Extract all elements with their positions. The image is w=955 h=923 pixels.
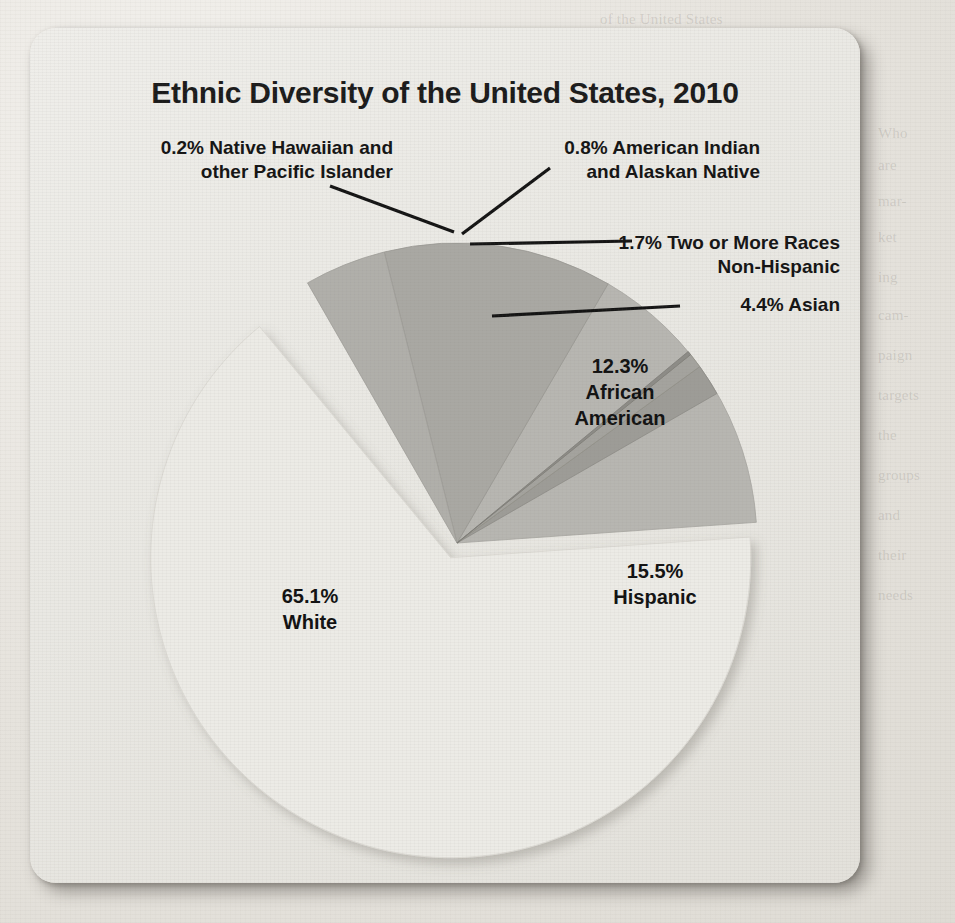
callout-native-hawaiian: 0.2% Native Hawaiian and other Pacific I… xyxy=(148,136,393,185)
callout-two-or-more-races-line2: Non-Hispanic xyxy=(718,256,840,277)
slice-label-hispanic: 15.5% Hispanic xyxy=(575,558,735,610)
callout-american-indian: 0.8% American Indian and Alaskan Native xyxy=(510,136,760,185)
slice-label-african-american: 12.3% African American xyxy=(540,353,700,431)
slice-label-white-pct: 65.1% xyxy=(282,585,339,607)
slice-label-hispanic-name: Hispanic xyxy=(613,586,696,608)
slice-label-hispanic-pct: 15.5% xyxy=(627,560,684,582)
slice-label-african-american-pct: 12.3% xyxy=(592,355,649,377)
figure-card: Ethnic Diversity of the United States, 2… xyxy=(30,28,860,883)
callout-american-indian-line2: and Alaskan Native xyxy=(586,161,760,182)
slice-label-african-american-line2: African xyxy=(586,381,655,403)
leader-line-hawaiian xyxy=(330,186,454,232)
callout-american-indian-line1: 0.8% American Indian xyxy=(564,137,760,158)
slice-label-white-name: White xyxy=(283,611,337,633)
callout-two-or-more-races-line1: 1.7% Two or More Races xyxy=(619,232,840,253)
callout-native-hawaiian-line2: other Pacific Islander xyxy=(201,161,393,182)
callout-native-hawaiian-line1: 0.2% Native Hawaiian and xyxy=(161,137,393,158)
callout-asian: 4.4% Asian xyxy=(630,293,840,317)
slice-label-african-american-line3: American xyxy=(574,407,665,429)
slice-label-white: 65.1% White xyxy=(235,583,385,635)
callout-two-or-more-races: 1.7% Two or More Races Non-Hispanic xyxy=(575,231,840,280)
callout-asian-text: 4.4% Asian xyxy=(740,294,840,315)
